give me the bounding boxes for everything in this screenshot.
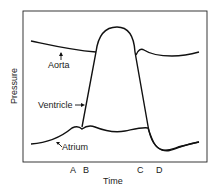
ventricle-label: Ventricle xyxy=(38,100,73,110)
atrium-label: Atrium xyxy=(62,142,88,152)
aorta-arrowhead-icon xyxy=(59,52,63,56)
ventricle-curve xyxy=(82,27,199,150)
aorta-label: Aorta xyxy=(48,60,70,70)
plot-frame xyxy=(23,11,207,162)
ventricle-arrowhead-icon xyxy=(81,103,85,107)
aorta-curve-left xyxy=(31,41,96,52)
pressure-diagram: Aorta Ventricle Atrium A B C D Time Pres… xyxy=(0,0,217,192)
marker-d: D xyxy=(156,165,163,175)
atrium-curve xyxy=(31,126,199,151)
aorta-curve-right xyxy=(136,49,199,56)
marker-c: C xyxy=(137,165,144,175)
x-axis-label: Time xyxy=(103,176,123,186)
marker-a: A xyxy=(70,165,76,175)
marker-b: B xyxy=(83,165,89,175)
y-axis-label: Pressure xyxy=(9,68,19,104)
